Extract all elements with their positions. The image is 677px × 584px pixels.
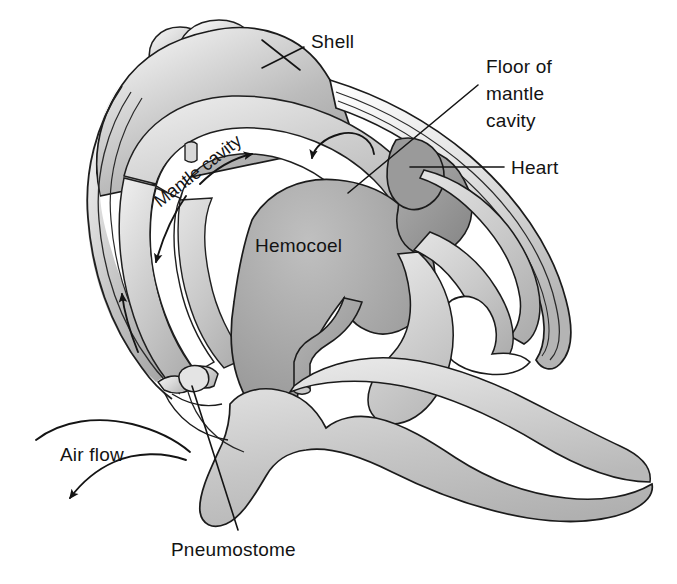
label-hemocoel: Hemocoel [255, 235, 342, 256]
snail-mantle-cavity-diagram: Shell Floor of mantle cavity Heart Hemoc… [0, 0, 677, 584]
label-floor-of-mantle-cavity-line1: Floor of [486, 56, 553, 77]
label-shell: Shell [311, 31, 354, 52]
snail-anatomy-figure: Shell Floor of mantle cavity Heart Hemoc… [0, 0, 677, 584]
label-pneumostome: Pneumostome [171, 539, 296, 560]
label-floor-of-mantle-cavity: Floor of mantle cavity [486, 56, 553, 131]
label-floor-of-mantle-cavity-line2: mantle [486, 83, 544, 104]
label-air-flow: Air flow [60, 444, 124, 465]
label-floor-of-mantle-cavity-line3: cavity [486, 110, 536, 131]
pneumostome-aperture [179, 366, 209, 392]
label-heart: Heart [511, 157, 559, 178]
